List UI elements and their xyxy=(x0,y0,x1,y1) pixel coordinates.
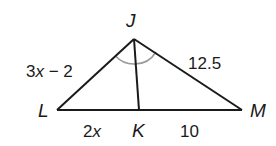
triangle-diagram: J L K M 3x − 2 12.5 2x 10 xyxy=(0,0,276,146)
vertex-label-M: M xyxy=(250,100,266,121)
side-label-LK: 2x xyxy=(83,122,101,141)
side-label-JM: 12.5 xyxy=(188,54,221,73)
angle-arc-right xyxy=(135,52,156,64)
bisector-JK xyxy=(134,39,139,110)
side-label-KM: 10 xyxy=(180,122,199,141)
angle-arc-left xyxy=(116,56,136,64)
side-label-JL: 3x − 2 xyxy=(26,62,73,81)
vertex-label-K: K xyxy=(132,120,146,141)
vertex-label-J: J xyxy=(125,10,136,31)
side-JM xyxy=(134,39,242,110)
vertex-label-L: L xyxy=(38,100,49,121)
